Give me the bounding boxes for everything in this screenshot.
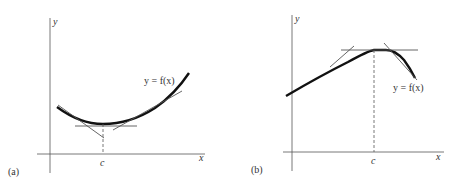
left-tangent bbox=[58, 105, 104, 138]
x-axis-label: x bbox=[435, 151, 441, 162]
panel-label: (b) bbox=[251, 164, 263, 176]
y-axis-label: y bbox=[52, 16, 58, 27]
right-tangent bbox=[113, 91, 182, 130]
panel-b: y x c y = f(x) (b) bbox=[251, 13, 444, 176]
c-label: c bbox=[100, 157, 105, 168]
panel-a: y x c y = f(x) (a) bbox=[8, 16, 205, 178]
curve-label: y = f(x) bbox=[393, 82, 424, 94]
x-axis-label: x bbox=[198, 152, 204, 163]
curve-label: y = f(x) bbox=[144, 75, 175, 87]
y-axis-label: y bbox=[294, 13, 300, 24]
panel-label: (a) bbox=[8, 166, 19, 178]
right-tangent bbox=[384, 43, 417, 80]
figure: y x c y = f(x) (a) y x c y = f bbox=[0, 0, 452, 183]
c-label: c bbox=[371, 155, 376, 166]
